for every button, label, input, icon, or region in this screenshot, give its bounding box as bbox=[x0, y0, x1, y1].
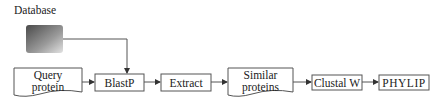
similar-line2: proteins bbox=[228, 81, 293, 93]
query-line2: protein bbox=[14, 81, 82, 93]
database-label: Database bbox=[14, 4, 56, 16]
query-line1: Query bbox=[14, 69, 82, 81]
database-icon bbox=[26, 25, 63, 53]
similar-line1: Similar bbox=[228, 69, 293, 81]
clustalw-label: Clustal W bbox=[312, 77, 362, 89]
query-protein-label: Query protein bbox=[14, 69, 82, 93]
blastp-label: BlastP bbox=[95, 77, 144, 89]
extract-label: Extract bbox=[161, 77, 211, 89]
similar-proteins-label: Similar proteins bbox=[228, 69, 293, 93]
phylip-label: PHYLIP bbox=[379, 77, 429, 89]
